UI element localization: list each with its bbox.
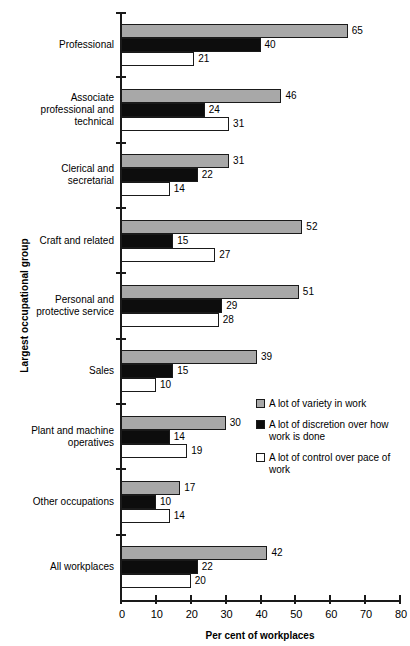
- bar-discretion-2: [121, 103, 205, 117]
- x-tick-0: [120, 595, 122, 604]
- category-label-3: Clerical andsecretarial: [0, 163, 114, 187]
- legend-swatch-discretion-icon: [256, 420, 265, 429]
- category-label-line: Associate: [0, 92, 114, 104]
- y-tick-6: [116, 403, 126, 405]
- x-axis-title: Per cent of workplaces: [120, 630, 400, 641]
- bar-discretion-8: [121, 495, 156, 509]
- category-label-4: Craft and related: [0, 235, 114, 247]
- y-tick-8: [116, 534, 126, 536]
- y-tick-2: [116, 142, 126, 144]
- bar-variety-7: [121, 416, 226, 430]
- bar-value-discretion-2: 24: [209, 103, 220, 117]
- bar-value-control-2: 31: [233, 117, 244, 131]
- category-label-6: Sales: [0, 365, 114, 377]
- category-label-line: All workplaces: [0, 561, 114, 573]
- category-label-5: Personal andprotective service: [0, 294, 114, 318]
- bar-variety-6: [121, 350, 257, 364]
- bar-discretion-9: [121, 560, 198, 574]
- x-tick-30: [225, 595, 227, 604]
- category-label-line: protective service: [0, 306, 114, 318]
- bar-variety-4: [121, 220, 302, 234]
- y-tick-3: [116, 207, 126, 209]
- bar-value-discretion-7: 14: [174, 430, 185, 444]
- bar-discretion-3: [121, 168, 198, 182]
- bar-value-control-7: 19: [191, 444, 202, 458]
- category-label-line: operatives: [0, 437, 114, 449]
- bar-value-variety-7: 30: [230, 416, 241, 430]
- bar-variety-1: [121, 24, 348, 38]
- bar-control-5: [121, 313, 219, 327]
- x-tick-70: [364, 595, 366, 604]
- x-tick-60: [329, 595, 331, 604]
- category-label-line: Sales: [0, 365, 114, 377]
- bar-variety-3: [121, 154, 229, 168]
- bar-value-variety-5: 51: [303, 285, 314, 299]
- category-label-line: Other occupations: [0, 496, 114, 508]
- x-tick-80: [399, 595, 401, 604]
- bar-value-discretion-6: 15: [177, 364, 188, 378]
- category-label-1: Professional: [0, 39, 114, 51]
- bar-value-control-6: 10: [160, 378, 171, 392]
- bar-value-variety-2: 46: [285, 89, 296, 103]
- category-label-line: Craft and related: [0, 235, 114, 247]
- bar-control-6: [121, 378, 156, 392]
- bar-variety-5: [121, 285, 299, 299]
- bar-value-discretion-3: 22: [202, 168, 213, 182]
- bar-value-variety-6: 39: [261, 350, 272, 364]
- bar-value-discretion-9: 22: [202, 560, 213, 574]
- bar-value-control-3: 14: [174, 182, 185, 196]
- chart-legend: A lot of variety in workA lot of discret…: [256, 398, 406, 485]
- category-label-line: secretarial: [0, 175, 114, 187]
- category-label-line: Clerical and: [0, 163, 114, 175]
- legend-item-discretion: A lot of discretion over how work is don…: [256, 419, 406, 443]
- bar-discretion-6: [121, 364, 173, 378]
- y-axis-top-cap: [116, 12, 126, 14]
- bar-discretion-1: [121, 38, 261, 52]
- bar-value-variety-1: 65: [352, 24, 363, 38]
- plot-area: 01020304050607080 6540214624313122145215…: [120, 12, 400, 600]
- bar-value-variety-9: 42: [271, 546, 282, 560]
- bar-value-control-8: 14: [174, 509, 185, 523]
- bar-discretion-4: [121, 234, 173, 248]
- legend-swatch-control-icon: [256, 453, 265, 462]
- category-label-8: Other occupations: [0, 496, 114, 508]
- bar-value-variety-3: 31: [233, 154, 244, 168]
- bar-value-discretion-1: 40: [265, 38, 276, 52]
- bar-variety-2: [121, 89, 281, 103]
- category-label-line: technical: [0, 116, 114, 128]
- bar-discretion-7: [121, 430, 170, 444]
- legend-label: A lot of control over pace of work: [269, 452, 390, 475]
- bar-control-2: [121, 117, 229, 131]
- bar-value-control-5: 28: [223, 313, 234, 327]
- category-label-line: Personal and: [0, 294, 114, 306]
- legend-item-control: A lot of control over pace of work: [256, 452, 406, 476]
- bar-value-discretion-8: 10: [160, 495, 171, 509]
- category-label-line: professional and: [0, 104, 114, 116]
- bar-value-control-4: 27: [219, 248, 230, 262]
- y-tick-4: [116, 272, 126, 274]
- bar-control-4: [121, 248, 215, 262]
- bar-control-7: [121, 444, 187, 458]
- bar-value-control-1: 21: [198, 52, 209, 66]
- y-tick-1: [116, 76, 126, 78]
- y-tick-7: [116, 468, 126, 470]
- bar-variety-8: [121, 481, 180, 495]
- x-tick-20: [190, 595, 192, 604]
- category-label-line: Professional: [0, 39, 114, 51]
- category-label-line: Plant and machine: [0, 425, 114, 437]
- bar-value-discretion-4: 15: [177, 234, 188, 248]
- x-tick-label-80: 80: [381, 608, 410, 620]
- x-tick-50: [294, 595, 296, 604]
- bar-value-discretion-5: 29: [226, 299, 237, 313]
- category-label-7: Plant and machineoperatives: [0, 425, 114, 449]
- bar-variety-9: [121, 546, 267, 560]
- legend-label: A lot of discretion over how work is don…: [269, 419, 389, 442]
- bar-control-1: [121, 52, 194, 66]
- bar-value-control-9: 20: [195, 574, 206, 588]
- bar-control-9: [121, 574, 191, 588]
- category-label-9: All workplaces: [0, 561, 114, 573]
- bar-control-8: [121, 509, 170, 523]
- bar-control-3: [121, 182, 170, 196]
- x-tick-10: [155, 595, 157, 604]
- legend-swatch-variety-icon: [256, 399, 265, 408]
